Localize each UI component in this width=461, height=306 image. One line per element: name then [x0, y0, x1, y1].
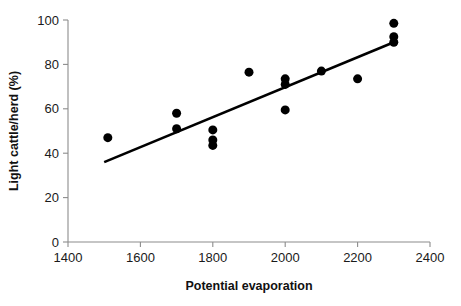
data-point [208, 141, 217, 150]
x-axis-title: Potential evaporation [185, 279, 312, 293]
x-tick-label: 2400 [416, 250, 445, 265]
y-tick-label: 100 [37, 13, 59, 28]
x-tick-label: 1400 [54, 250, 83, 265]
x-tick-label: 1600 [126, 250, 155, 265]
data-point [103, 133, 112, 142]
y-tick-label: 60 [45, 101, 59, 116]
data-point [353, 74, 362, 83]
x-tick-label: 2000 [271, 250, 300, 265]
y-tick-label: 40 [45, 146, 59, 161]
chart-figure: 020406080100 140016001800200022002400 Po… [0, 0, 461, 306]
scatter-plot: 020406080100 140016001800200022002400 Po… [0, 0, 461, 306]
data-point [172, 109, 181, 118]
data-point [245, 68, 254, 77]
x-tick-label: 2200 [343, 250, 372, 265]
y-tick-label: 80 [45, 57, 59, 72]
data-point [281, 80, 290, 89]
data-point [317, 67, 326, 76]
y-tick-label: 20 [45, 190, 59, 205]
data-point [389, 38, 398, 47]
data-point [389, 19, 398, 28]
data-point [208, 125, 217, 134]
data-point [172, 124, 181, 133]
y-axis-title: Light cattle/herd (%) [7, 71, 21, 191]
y-tick-label: 0 [52, 235, 59, 250]
x-tick-label: 1800 [198, 250, 227, 265]
data-point [281, 105, 290, 114]
